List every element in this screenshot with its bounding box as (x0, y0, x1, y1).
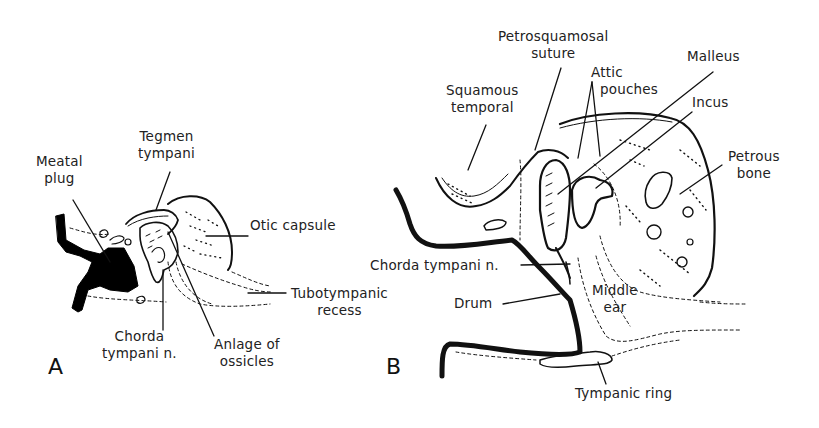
panel-a-leader-lines (73, 172, 286, 336)
label-incus: Incus (692, 94, 729, 111)
label-otic-capsule: Otic capsule (250, 217, 336, 234)
label-line: Petrosquamosal (498, 28, 608, 45)
label-line: ear (592, 299, 638, 316)
panel-a-drawing (56, 172, 286, 336)
label-line: Meatal (36, 153, 83, 170)
label-drum: Drum (454, 295, 492, 312)
otic-capsule-outline (168, 196, 232, 270)
label-line: Anlage of (214, 336, 280, 353)
label-line: temporal (446, 99, 519, 116)
label-line: bone (728, 165, 780, 182)
label-line: ossicles (214, 353, 280, 370)
label-middle-ear: Middle ear (592, 282, 638, 316)
label-tegmen-tympani: Tegmen tympani (138, 128, 195, 162)
label-line: Chorda (102, 328, 177, 345)
label-anlage-of-ossicles: Anlage of ossicles (214, 336, 280, 370)
label-tympanic-ring: Tympanic ring (575, 385, 672, 402)
label-line: Middle (592, 282, 638, 299)
label-line: tympani n. (102, 345, 177, 362)
incus-shape (572, 177, 613, 228)
label-chorda-tympani-a: Chorda tympani n. (102, 328, 177, 362)
petrous-cavity (645, 172, 672, 208)
label-line: Tubotympanic (291, 285, 388, 302)
label-line: Petrous (728, 148, 780, 165)
label-tubotympanic-recess: Tubotympanic recess (291, 285, 388, 319)
label-malleus: Malleus (687, 48, 740, 65)
panel-label-a: A (48, 354, 63, 379)
panel-label-b: B (386, 354, 401, 379)
ossicle-anlage-shape (140, 222, 178, 282)
label-line: Squamous (446, 82, 519, 99)
label-squamous-temporal: Squamous temporal (446, 82, 519, 116)
label-meatal-plug: Meatal plug (36, 153, 83, 187)
label-line: recess (291, 302, 388, 319)
label-petrous-bone: Petrous bone (728, 148, 780, 182)
label-line: plug (36, 170, 83, 187)
malleus-shape (540, 160, 570, 250)
label-petrosquamosal-suture: Petrosquamosal suture (498, 28, 608, 62)
label-line: Tegmen (138, 128, 195, 145)
label-line: suture (498, 45, 608, 62)
label-attic-pouches: Attic pouches (591, 64, 658, 98)
label-line: tympani (138, 145, 195, 162)
label-line: pouches (591, 81, 658, 98)
label-chorda-tympani-b: Chorda tympani n. (370, 257, 499, 274)
label-line: Attic (591, 64, 658, 81)
